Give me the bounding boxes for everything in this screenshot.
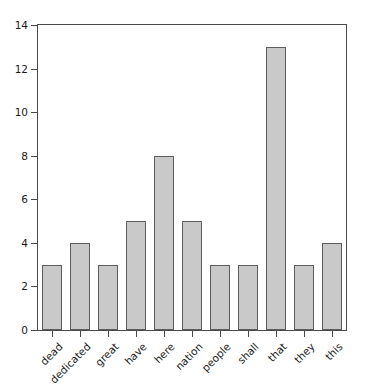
bars-layer [38,25,346,330]
x-axis-tick [108,331,109,337]
y-axis-tick-label: 2 [21,281,28,291]
y-axis-tick [31,286,37,287]
bar-have [126,221,145,330]
y-axis-tick-label: 4 [21,238,28,248]
y-axis-tick-label: 8 [21,151,28,161]
bar-dedicated [70,243,89,330]
x-axis-tick [164,331,165,337]
y-axis-tick-label: 0 [21,325,28,335]
y-axis-tick-label: 10 [15,107,28,117]
x-axis-tick [136,331,137,337]
bar-people [210,265,229,330]
y-axis-tick [31,243,37,244]
y-axis-tick [31,112,37,113]
bar-great [98,265,117,330]
x-axis-tick [52,331,53,337]
bar-nation [182,221,201,330]
bar-shall [238,265,257,330]
y-axis-tick [31,199,37,200]
x-axis-tick [248,331,249,337]
bar-they [294,265,313,330]
x-axis-tick [220,331,221,337]
x-axis-tick [80,331,81,337]
bar-here [154,156,173,330]
y-axis-tick-label: 6 [21,194,28,204]
x-axis-tick [304,331,305,337]
y-axis-tick [31,69,37,70]
x-axis-tick [276,331,277,337]
y-axis-tick-label: 14 [15,20,28,30]
bar-chart: 02468101214 deaddedicatedgreathaveherena… [0,0,365,390]
bar-that [266,47,285,330]
bar-dead [42,265,61,330]
y-axis-tick-label: 12 [15,64,28,74]
bar-this [322,243,341,330]
y-axis-tick [31,156,37,157]
x-axis-tick [332,331,333,337]
y-axis-tick [31,25,37,26]
y-axis-tick [31,330,37,331]
x-axis-tick [192,331,193,337]
